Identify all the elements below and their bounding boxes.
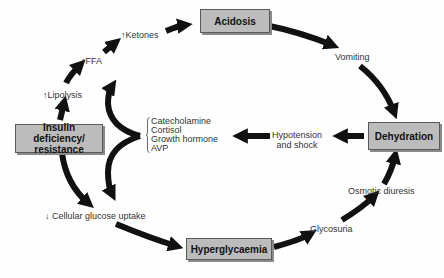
arrow-vomiting-to-dehydration bbox=[360, 66, 394, 112]
hypotension-label: Hypotension and shock bbox=[272, 130, 322, 150]
arrow-hormones-to-glucose-uptake bbox=[108, 136, 140, 194]
brace-icon bbox=[146, 117, 150, 153]
dehydration-label: Dehydration bbox=[375, 131, 433, 142]
hypotension-line1: Hypotension bbox=[272, 130, 322, 140]
hormones-list: Catecholamine Cortisol Growth hormone AV… bbox=[151, 117, 218, 153]
arrow-ketones-to-acidosis bbox=[166, 25, 185, 31]
insulin-label-line1: Insulin deficiency/ bbox=[16, 122, 102, 144]
arrow-insulin-to-lipolysis bbox=[60, 103, 64, 120]
osmotic-diuresis-label: Osmotic diuresis bbox=[348, 186, 415, 196]
hypotension-line2: and shock bbox=[272, 140, 322, 150]
vomiting-label: Vomiting bbox=[335, 52, 370, 62]
arrow-ffa-to-ketones bbox=[104, 43, 115, 52]
acidosis-label: Acidosis bbox=[214, 16, 256, 27]
insulin-label-line2: resistance bbox=[34, 144, 83, 155]
arrow-glycosuria-to-osmotic-diuresis bbox=[342, 196, 374, 220]
cellular-glucose-uptake-label: ↓ Cellular glucose uptake bbox=[45, 211, 146, 221]
hyperglycaemia-label: Hyperglycaemia bbox=[191, 244, 268, 255]
arrow-hyperglycaemia-to-glycosuria bbox=[274, 234, 310, 247]
ketones-label: ↑Ketones bbox=[121, 30, 159, 40]
acidosis-box: Acidosis bbox=[200, 9, 270, 33]
glycosuria-label: Glycosuria bbox=[310, 224, 353, 234]
lipolysis-label: ↑Lipolysis bbox=[43, 90, 82, 100]
arrow-insulin-to-glucose-uptake bbox=[62, 153, 88, 203]
arrow-hormones-to-ffa bbox=[108, 86, 140, 136]
arrow-lipolysis-to-ffa bbox=[66, 65, 80, 83]
dehydration-box: Dehydration bbox=[368, 122, 440, 150]
arrow-acidosis-to-vomiting bbox=[265, 25, 332, 45]
hyperglycaemia-box: Hyperglycaemia bbox=[186, 238, 272, 260]
ffa-label: ↑FFA bbox=[81, 56, 102, 66]
arrow-osmotic-diuresis-to-dehydration bbox=[384, 156, 395, 184]
hormone-item: AVP bbox=[151, 144, 218, 153]
diabetic-ketoacidosis-cycle-diagram: Acidosis Dehydration Hyperglycaemia Insu… bbox=[0, 0, 444, 278]
insulin-deficiency-box: Insulin deficiency/ resistance bbox=[15, 124, 103, 153]
arrow-glucose-uptake-to-hyperglycaemia bbox=[116, 224, 176, 246]
